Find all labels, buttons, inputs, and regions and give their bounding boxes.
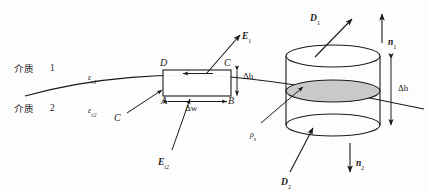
- medium-1-index: 1: [50, 64, 55, 74]
- e1-subscript: 1: [248, 38, 251, 44]
- d2-subscript: 2: [288, 184, 291, 190]
- cylinder-interface-face: [286, 80, 380, 102]
- e1-label: E1: [242, 26, 251, 44]
- loop-delta-w-label: Δw: [185, 104, 197, 113]
- d2-symbol: D: [281, 177, 288, 187]
- d1-symbol: D: [310, 13, 317, 23]
- figure-canvas: 介质 1 εr1 介质 2 εr2 C D C A B Δh Δw E1 Et2…: [0, 0, 429, 192]
- contour-c-leader-arrow: [127, 90, 162, 113]
- loop-corner-b-label: B: [228, 96, 234, 106]
- loop-delta-h-label: Δh: [243, 72, 253, 81]
- n2-subscript: 2: [361, 165, 364, 171]
- permittivity-1-subscript: r1: [91, 79, 96, 85]
- d1-subscript: 1: [317, 20, 320, 26]
- medium-1-label: 介质: [14, 64, 34, 74]
- permittivity-2-subscript: r2: [91, 112, 96, 118]
- n2-label: n2: [356, 153, 364, 171]
- medium-2-label: 介质: [14, 104, 34, 114]
- cylinder-bottom-face: [286, 114, 380, 136]
- rho-s-label: ρs: [250, 124, 256, 142]
- permittivity-1-label: εr1: [88, 67, 97, 85]
- d1-label: D1: [310, 8, 320, 26]
- loop-corner-d-label: D: [160, 58, 167, 68]
- contour-c-label: C: [114, 113, 121, 123]
- et2-subscript: t2: [164, 164, 169, 170]
- et2-label: Et2: [158, 152, 169, 170]
- d2-label: D2: [281, 172, 291, 190]
- d2-vector-arrow: [290, 128, 313, 172]
- e1-vector-arrow: [206, 35, 240, 74]
- rho-s-subscript: s: [254, 136, 256, 142]
- n1-label: n1: [388, 32, 396, 50]
- pillbox-delta-h-label: Δh: [398, 84, 408, 93]
- loop-corner-a-label: A: [161, 96, 167, 106]
- permittivity-2-label: εr2: [88, 100, 97, 118]
- n1-subscript: 1: [393, 44, 396, 50]
- loop-corner-c-label: C: [224, 58, 231, 68]
- cylinder-top-face: [286, 45, 380, 67]
- diagram-svg: [0, 0, 429, 192]
- medium-2-index: 2: [50, 104, 55, 114]
